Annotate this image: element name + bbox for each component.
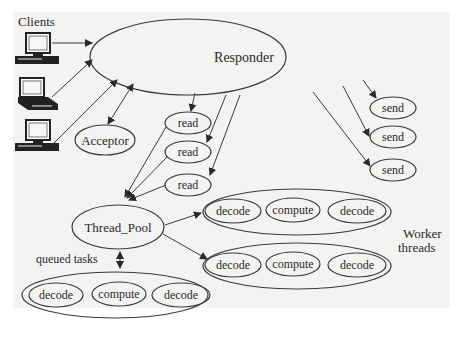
client-laptop-icon [18, 78, 58, 110]
read-to-threadpool-arrow [129, 185, 166, 200]
worker-task-label: decode [216, 204, 250, 218]
acceptor-label: Acceptor [81, 133, 129, 148]
worker-task-label: compute [272, 203, 313, 217]
clients-label: Clients [18, 14, 55, 29]
reactor-pattern-diagram: Clients Responder Acceptor read read rea… [0, 0, 460, 339]
read-to-threadpool-arrow [125, 127, 166, 197]
responder-to-read-arrow [191, 93, 195, 111]
read-label: read [178, 145, 199, 159]
send-label: send [382, 130, 404, 144]
client-computer-icon [15, 33, 59, 64]
queue-task-label: decode [164, 288, 198, 302]
thread-pool-label: Thread_Pool [84, 220, 152, 235]
read-label: read [178, 116, 199, 130]
worker-threads-label: threads [398, 240, 436, 255]
read-to-threadpool-arrow [127, 157, 167, 198]
worker-task-label: compute [272, 257, 313, 271]
queue-task-label: compute [98, 287, 139, 301]
acceptor-responder-arrow [108, 84, 133, 124]
threadpool-to-worker-arrow [163, 234, 207, 259]
queue-task-label: decode [39, 288, 73, 302]
responder-to-send-arrow [313, 92, 370, 166]
client-computer-icon [15, 120, 59, 151]
worker-task-label: decode [340, 204, 374, 218]
worker-threads-label: Worker [403, 226, 442, 241]
responder-to-send-arrow [363, 80, 376, 98]
send-label: send [382, 163, 404, 177]
responder-to-read-arrow [210, 95, 240, 175]
responder-label: Responder [214, 50, 274, 65]
read-label: read [178, 178, 199, 192]
client-to-responder-arrow [52, 60, 92, 97]
responder-to-send-arrow [343, 86, 369, 136]
send-label: send [382, 101, 404, 115]
worker-task-label: decode [216, 258, 250, 272]
queued-tasks-label: queued tasks [36, 252, 98, 266]
threadpool-to-worker-arrow [165, 213, 201, 225]
worker-task-label: decode [340, 258, 374, 272]
